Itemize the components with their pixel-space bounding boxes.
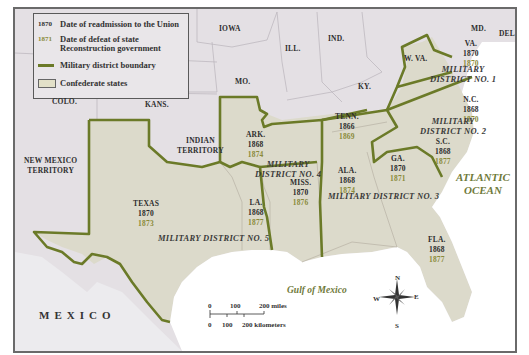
label-ky: KY. — [358, 82, 371, 92]
compass-w: W — [373, 295, 380, 303]
indian-territory-line2: TERRITORY — [177, 146, 224, 155]
scale-km-200: 200 kilometers — [242, 321, 286, 329]
scale-miles-200: 200 miles — [259, 302, 287, 310]
map-legend: 1870Date of readmission to the Union 187… — [33, 13, 189, 99]
label-wva: W. VA. — [404, 54, 427, 64]
label-colo: COLO. — [52, 97, 77, 107]
label-state-ark: ARK.18681874 — [246, 130, 265, 160]
compass-n: N — [395, 274, 400, 282]
nm-territory-line1: NEW MEXICO — [24, 156, 77, 165]
label-iowa: IOWA — [219, 24, 241, 34]
label-ind: IND. — [328, 34, 344, 44]
label-military-district-1: MILITARYDISTRICT NO. 1 — [430, 64, 496, 84]
legend-readmission-label: Date of readmission to the Union — [60, 20, 179, 29]
label-state-la: LA.18681877 — [248, 198, 264, 228]
label-state-texas: TEXAS18701873 — [133, 199, 159, 229]
label-ill: ILL. — [285, 44, 301, 54]
nm-territory-line2: TERRITORY — [27, 166, 74, 175]
label-military-district-2: MILITARYDISTRICT NO. 2 — [420, 116, 486, 136]
label-state-miss: MISS.18701876 — [290, 178, 311, 208]
label-state-sc: S.C.18681877 — [435, 137, 451, 167]
label-military-district-4: MILITARYDISTRICT NO. 4 — [255, 159, 321, 179]
label-state-tenn: TENN.18661869 — [335, 112, 359, 142]
label-gulf-of-mexico: Gulf of Mexico — [287, 285, 347, 295]
label-new-mexico-territory: NEW MEXICOTERRITORY — [24, 156, 77, 176]
label-del: DEL. — [499, 29, 517, 39]
legend-confederate: Confederate states — [38, 79, 127, 88]
legend-boundary: Military district boundary — [38, 61, 156, 70]
label-military-district-5: MILITARY DISTRICT NO. 5 — [158, 233, 269, 243]
label-mo: MO. — [235, 77, 250, 87]
label-md: MD. — [471, 24, 486, 34]
label-state-fla: FLA.18681877 — [428, 235, 446, 265]
label-indian-territory: INDIANTERRITORY — [177, 136, 224, 156]
indian-territory-line1: INDIAN — [186, 136, 215, 145]
compass-e: E — [414, 293, 419, 301]
scale-miles-100: 100 — [230, 302, 241, 310]
label-mexico: MEXICO — [39, 309, 115, 321]
scale-km-100: 100 — [222, 321, 233, 329]
legend-defeat: 1871Date of defeat of stateReconstructio… — [38, 35, 161, 53]
scale-km-0: 0 — [208, 321, 212, 329]
legend-defeat-label-2: Reconstruction government — [60, 43, 161, 53]
legend-readmission-key: 1870 — [38, 20, 60, 29]
map-frame: 1870Date of readmission to the Union 187… — [13, 7, 517, 353]
legend-defeat-key: 1871 — [38, 35, 60, 44]
compass-s: S — [395, 322, 399, 330]
confederate-swatch — [38, 79, 56, 88]
district-line-swatch — [38, 64, 54, 67]
label-kans: KANS. — [145, 100, 169, 110]
legend-readmission: 1870Date of readmission to the Union — [38, 20, 179, 29]
legend-boundary-label: Military district boundary — [60, 61, 156, 70]
legend-confederate-label: Confederate states — [60, 79, 127, 88]
label-military-district-3: MILITARY DISTRICT NO. 3 — [328, 191, 439, 201]
scale-miles-0: 0 — [208, 302, 212, 310]
label-state-ga: GA.18701871 — [390, 154, 406, 184]
label-atlantic-ocean: ATLANTICOCEAN — [456, 171, 510, 197]
